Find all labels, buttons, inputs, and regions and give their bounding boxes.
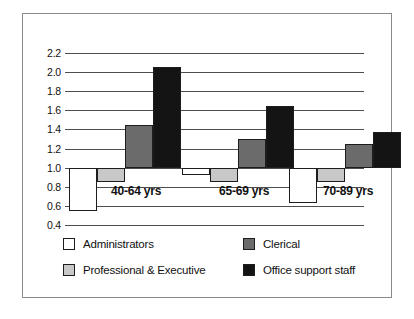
y-tick-label-0.6: 0.6	[31, 201, 61, 211]
legend-item-professional-executive[interactable]: Professional & Executive	[63, 264, 205, 276]
bar-70-89-yrs-administrators	[289, 168, 317, 203]
y-tick-label-2.2: 2.2	[31, 48, 61, 58]
bar-65-69-yrs-office-support-staff	[266, 106, 294, 168]
bar-40-64-yrs-professional-executive	[97, 168, 125, 182]
chart-figure-frame: 2.22.01.81.61.41.21.00.80.60.4 40-64 yrs…	[22, 13, 392, 298]
y-tick-label-1.2: 1.2	[31, 144, 61, 154]
legend-item-administrators[interactable]: Administrators	[63, 238, 154, 250]
legend-label: Clerical	[263, 238, 300, 250]
y-tick-label-1.6: 1.6	[31, 105, 61, 115]
bar-65-69-yrs-clerical	[238, 139, 266, 168]
category-label-40-64-yrs: 40-64 yrs	[111, 184, 161, 198]
bar-40-64-yrs-clerical	[125, 125, 153, 168]
bar-65-69-yrs-professional-executive	[210, 168, 238, 182]
gridline-2.2	[65, 53, 364, 54]
y-tick-label-0.8: 0.8	[31, 182, 61, 192]
bar-70-89-yrs-office-support-staff	[373, 132, 401, 167]
y-tick-label-1.4: 1.4	[31, 124, 61, 134]
gridline-1.8	[65, 91, 364, 92]
legend-label: Professional & Executive	[83, 264, 205, 276]
gridline-0.4	[65, 225, 364, 226]
gridline-0.6	[65, 206, 364, 207]
legend-label: Office support staff	[263, 264, 355, 276]
legend-swatch-icon	[243, 264, 255, 276]
legend-swatch-icon	[63, 238, 75, 250]
gridline-1.4	[65, 129, 364, 130]
legend-swatch-icon	[243, 238, 255, 250]
y-tick-label-1.8: 1.8	[31, 86, 61, 96]
category-label-70-89-yrs: 70-89 yrs	[323, 184, 373, 198]
legend-label: Administrators	[83, 238, 154, 250]
y-tick-label-0.4: 0.4	[31, 220, 61, 230]
bar-65-69-yrs-administrators	[182, 168, 210, 176]
bar-70-89-yrs-professional-executive	[317, 168, 345, 182]
bar-40-64-yrs-administrators	[69, 168, 97, 211]
gridline-2.0	[65, 72, 364, 73]
chart-legend: AdministratorsProfessional & ExecutiveCl…	[63, 238, 373, 286]
legend-item-office-support-staff[interactable]: Office support staff	[243, 264, 355, 276]
bar-40-64-yrs-office-support-staff	[153, 67, 181, 167]
gridline-1.2	[65, 149, 364, 150]
legend-swatch-icon	[63, 264, 75, 276]
y-tick-label-2.0: 2.0	[31, 67, 61, 77]
y-tick-label-1.0: 1.0	[31, 163, 61, 173]
gridline-0.8	[65, 187, 364, 188]
bar-70-89-yrs-clerical	[345, 144, 373, 168]
legend-item-clerical[interactable]: Clerical	[243, 238, 300, 250]
gridline-1.6	[65, 110, 364, 111]
category-label-65-69-yrs: 65-69 yrs	[219, 184, 269, 198]
